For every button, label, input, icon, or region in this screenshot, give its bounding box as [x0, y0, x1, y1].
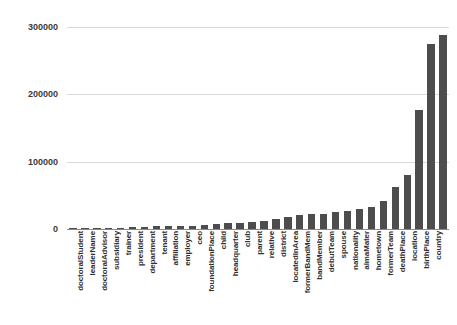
x-tick-label-slot: doctoralStudent — [67, 231, 79, 325]
bar[interactable] — [213, 224, 220, 229]
x-tick-label-slot: almaMater — [354, 231, 366, 325]
bar[interactable] — [260, 221, 267, 229]
bar[interactable] — [380, 201, 387, 229]
bar-slot — [103, 27, 115, 229]
bar-chart: 3000002000001000000 doctoralStudentleade… — [0, 0, 457, 325]
x-tick-label-slot: parent — [246, 231, 258, 325]
bar[interactable] — [356, 209, 363, 229]
x-tick-label: country — [434, 231, 443, 260]
x-tick-label-slot: affiliation — [163, 231, 175, 325]
x-tick-label-slot: relative — [258, 231, 270, 325]
bar-slot — [210, 27, 222, 229]
y-tick-label: 300000 — [28, 22, 58, 32]
bar-slot — [437, 27, 449, 229]
bar-slot — [115, 27, 127, 229]
bar-slot — [234, 27, 246, 229]
x-tick-label-slot: formerBandMem — [294, 231, 306, 325]
bar[interactable] — [224, 223, 231, 229]
bar-slot — [354, 27, 366, 229]
x-tick-label-slot: birthPlace — [413, 231, 425, 325]
bar[interactable] — [332, 212, 339, 229]
bar[interactable] — [439, 35, 446, 229]
x-tick-label-slot: employer — [174, 231, 186, 325]
x-tick-label-slot: headquarter — [222, 231, 234, 325]
bar[interactable] — [320, 214, 327, 229]
bar[interactable] — [404, 175, 411, 229]
bar-slot — [365, 27, 377, 229]
bar[interactable] — [201, 225, 208, 229]
bar[interactable] — [427, 44, 434, 229]
x-axis-baseline — [67, 229, 449, 230]
x-axis-labels: doctoralStudentleaderNamedoctoralAdvisor… — [67, 231, 449, 325]
bar[interactable] — [189, 226, 196, 230]
bar-slot — [139, 27, 151, 229]
x-tick-label-slot: foundationPlace — [198, 231, 210, 325]
bar-slot — [163, 27, 175, 229]
bar-slot — [67, 27, 79, 229]
bar-slot — [270, 27, 282, 229]
bar-slot — [198, 27, 210, 229]
bar[interactable] — [177, 226, 184, 229]
bar-slot — [258, 27, 270, 229]
x-tick-label-slot: spouse — [330, 231, 342, 325]
bar[interactable] — [129, 227, 136, 229]
bar[interactable] — [236, 223, 243, 229]
bar[interactable] — [344, 211, 351, 229]
x-tick-label-slot: deathPlace — [389, 231, 401, 325]
bar-slot — [79, 27, 91, 229]
bar[interactable] — [105, 228, 112, 229]
x-tick-label-slot: ceo — [186, 231, 198, 325]
bar-slot — [186, 27, 198, 229]
bar-slot — [127, 27, 139, 229]
x-tick-label-slot: bandMember — [306, 231, 318, 325]
y-axis: 3000002000001000000 — [0, 0, 63, 325]
bar[interactable] — [415, 110, 422, 229]
bar-slot — [401, 27, 413, 229]
x-tick-label-slot: debutTeam — [318, 231, 330, 325]
y-tick-label: 0 — [53, 224, 58, 234]
x-tick-label-slot: trainer — [115, 231, 127, 325]
x-tick-label-slot: country — [425, 231, 437, 325]
bar[interactable] — [165, 226, 172, 229]
bar[interactable] — [141, 227, 148, 229]
x-tick-label-slot: hometown — [365, 231, 377, 325]
x-tick-label-slot: president — [127, 231, 139, 325]
x-tick-label-slot: leaderName — [79, 231, 91, 325]
bar-slot — [330, 27, 342, 229]
bar[interactable] — [153, 226, 160, 229]
bar-slot — [342, 27, 354, 229]
bar[interactable] — [248, 222, 255, 229]
x-tick-label-slot: nationality — [342, 231, 354, 325]
x-tick-label-slot: district — [270, 231, 282, 325]
bar-slot — [294, 27, 306, 229]
bars-layer — [67, 27, 449, 229]
bar-slot — [377, 27, 389, 229]
x-tick-label-slot: club — [234, 231, 246, 325]
bar[interactable] — [93, 228, 100, 229]
bar[interactable] — [81, 228, 88, 229]
bar[interactable] — [392, 187, 399, 229]
x-tick-label-slot: child — [210, 231, 222, 325]
bar[interactable] — [284, 217, 291, 229]
x-tick-label-slot: location — [401, 231, 413, 325]
bar-slot — [425, 27, 437, 229]
bar-slot — [222, 27, 234, 229]
bar[interactable] — [69, 228, 76, 229]
bar-slot — [389, 27, 401, 229]
y-tick-label: 200000 — [28, 89, 58, 99]
bar-slot — [413, 27, 425, 229]
bar-slot — [174, 27, 186, 229]
bar[interactable] — [272, 219, 279, 229]
bar-slot — [318, 27, 330, 229]
bar[interactable] — [368, 207, 375, 229]
x-tick-label-slot: doctoralAdvisor — [91, 231, 103, 325]
bar-slot — [151, 27, 163, 229]
bar-slot — [91, 27, 103, 229]
bar-slot — [306, 27, 318, 229]
x-tick-label-slot: formerTeam — [377, 231, 389, 325]
bar[interactable] — [296, 215, 303, 229]
x-tick-label-slot: locatedInArea — [282, 231, 294, 325]
bar[interactable] — [117, 228, 124, 229]
bar[interactable] — [308, 214, 315, 229]
bar-slot — [246, 27, 258, 229]
